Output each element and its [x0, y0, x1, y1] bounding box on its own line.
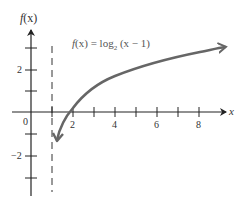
x-axis-label: x [229, 106, 234, 117]
y-axis-label: f(x) [20, 12, 37, 24]
y-tick-label-2: 2 [17, 65, 22, 75]
origin-label: 0 [23, 117, 28, 127]
x-tick-label-6: 6 [154, 120, 159, 130]
y-tick-label-neg2: −2 [11, 151, 22, 161]
x-tick-label-4: 4 [112, 120, 117, 130]
function-label: f(x) = log2 (x − 1) [72, 37, 150, 52]
chart-canvas [0, 0, 241, 204]
x-tick-label-8: 8 [196, 120, 201, 130]
x-tick-label-2: 2 [70, 120, 75, 130]
